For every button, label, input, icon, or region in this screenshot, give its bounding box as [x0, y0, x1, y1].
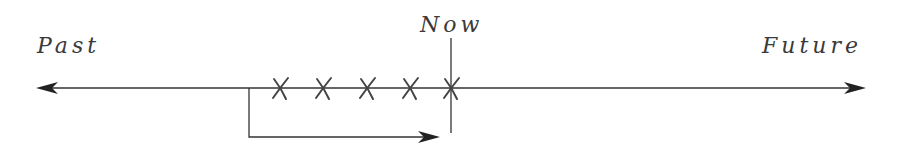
future-label: Future	[762, 35, 862, 57]
now-label: Now	[420, 14, 483, 36]
past-label: Past	[37, 35, 100, 57]
window-bracket-arrow	[249, 88, 440, 143]
timeline-diagram: Past Now Future	[0, 0, 901, 151]
